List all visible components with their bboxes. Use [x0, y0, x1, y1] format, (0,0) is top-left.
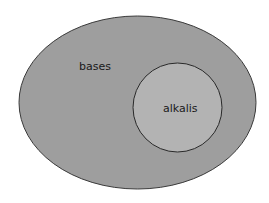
venn-diagram: bases alkalis [0, 0, 269, 203]
bases-label: bases [79, 60, 111, 73]
alkalis-label: alkalis [163, 102, 198, 115]
